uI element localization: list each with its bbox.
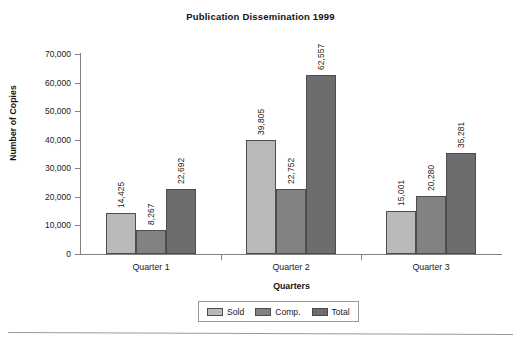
bar-comp-q3[interactable]: 20,280 [416, 196, 446, 254]
x-axis-category-label: Quarter 2 [221, 262, 361, 272]
y-axis-tick [75, 83, 81, 84]
y-axis-tick [75, 54, 81, 55]
chart-legend: SoldComp.Total [198, 301, 359, 322]
bar-group: 15,00120,28035,281 [386, 54, 476, 254]
y-axis-tick [75, 140, 81, 141]
x-axis-line [81, 254, 502, 255]
bar-group: 14,4258,26722,692 [106, 54, 196, 254]
legend-swatch-icon [312, 308, 328, 316]
y-axis-tick-label: 0 [17, 249, 71, 259]
bar-value-label: 35,281 [456, 122, 466, 148]
legend-label: Total [332, 307, 350, 317]
bar-value-label: 39,805 [256, 109, 266, 135]
x-axis-separator-tick [361, 255, 362, 260]
x-axis-title: Quarters [81, 281, 502, 291]
chart-title: Publication Dissemination 1999 [0, 11, 521, 22]
bar-sold-q3[interactable]: 15,001 [386, 211, 416, 254]
bar-sold-q2[interactable]: 39,805 [246, 140, 276, 254]
y-axis-tick-label: 20,000 [17, 192, 71, 202]
x-axis-category-label: Quarter 3 [361, 262, 501, 272]
bar-value-label: 22,692 [176, 158, 186, 184]
legend-label: Comp. [275, 307, 300, 317]
x-axis-category-label: Quarter 1 [81, 262, 221, 272]
y-axis-tick [75, 168, 81, 169]
legend-swatch-icon [255, 308, 271, 316]
bar-value-label: 8,267 [146, 204, 156, 225]
plot-area: 14,4258,26722,69239,80522,75262,55715,00… [81, 54, 501, 254]
y-axis-tick-label: 50,000 [17, 106, 71, 116]
y-axis-tick-label: 70,000 [17, 49, 71, 59]
bar-total-q1[interactable]: 22,692 [166, 189, 196, 254]
legend-swatch-icon [207, 308, 223, 316]
y-axis-tick-label: 60,000 [17, 78, 71, 88]
y-axis-tick [75, 225, 81, 226]
bar-comp-q1[interactable]: 8,267 [136, 230, 166, 254]
bar-comp-q2[interactable]: 22,752 [276, 189, 306, 254]
y-axis-tick-label: 40,000 [17, 135, 71, 145]
x-axis-separator-tick [221, 255, 222, 260]
y-axis-tick [75, 111, 81, 112]
bar-value-label: 15,001 [396, 180, 406, 206]
bar-value-label: 62,557 [316, 44, 326, 70]
bar-value-label: 14,425 [116, 182, 126, 208]
y-axis-tick-labels: 010,00020,00030,00040,00050,00060,00070,… [14, 0, 71, 344]
page-divider-rule [8, 332, 513, 335]
legend-label: Sold [227, 307, 244, 317]
legend-entry-sold[interactable]: Sold [207, 307, 244, 317]
y-axis-tick [75, 254, 81, 255]
bar-sold-q1[interactable]: 14,425 [106, 213, 136, 254]
legend-entry-total[interactable]: Total [312, 307, 350, 317]
bar-total-q3[interactable]: 35,281 [446, 153, 476, 254]
y-axis-tick-label: 10,000 [17, 220, 71, 230]
bar-total-q2[interactable]: 62,557 [306, 75, 336, 254]
bar-value-label: 22,752 [286, 158, 296, 184]
bar-value-label: 20,280 [426, 165, 436, 191]
y-axis-tick-label: 30,000 [17, 163, 71, 173]
y-axis-tick [75, 197, 81, 198]
legend-entry-comp[interactable]: Comp. [255, 307, 300, 317]
bar-group: 39,80522,75262,557 [246, 54, 336, 254]
